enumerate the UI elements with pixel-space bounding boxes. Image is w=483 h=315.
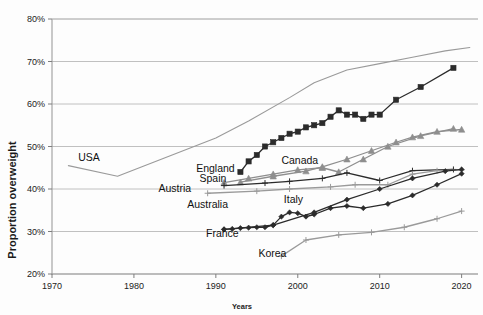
- x-tick-label: 1970: [42, 281, 62, 291]
- overweight-proportion-line-chart: 20%30%40%50%60%70%80% 197019801990200020…: [0, 0, 483, 315]
- label-korea: Korea: [258, 247, 286, 259]
- y-tick-label: 70%: [27, 57, 45, 67]
- x-tick-label: 1990: [206, 281, 226, 291]
- x-tick-label: 2000: [288, 281, 308, 291]
- y-tick-label: 80%: [27, 14, 45, 24]
- y-tick-label: 20%: [27, 269, 45, 279]
- label-australia: Australia: [187, 198, 228, 210]
- y-tick-label: 50%: [27, 142, 45, 152]
- x-tick-label: 2010: [370, 281, 390, 291]
- y-tick-label: 40%: [27, 184, 45, 194]
- chart-background: [0, 0, 483, 315]
- y-axis-title: Proportion overweight: [6, 141, 18, 259]
- label-france: France: [206, 227, 239, 239]
- x-tick-label: 2020: [452, 281, 472, 291]
- y-tick-label: 30%: [27, 227, 45, 237]
- label-spain: Spain: [199, 172, 226, 184]
- label-italy: Italy: [284, 193, 304, 205]
- label-austria: Austria: [159, 182, 192, 194]
- x-tick-label: 1980: [124, 281, 144, 291]
- x-axis-title: Years: [232, 302, 252, 311]
- y-tick-label: 60%: [27, 99, 45, 109]
- chart-container: 20%30%40%50%60%70%80% 197019801990200020…: [0, 0, 483, 315]
- label-usa: USA: [78, 151, 100, 163]
- label-canada: Canada: [281, 154, 318, 166]
